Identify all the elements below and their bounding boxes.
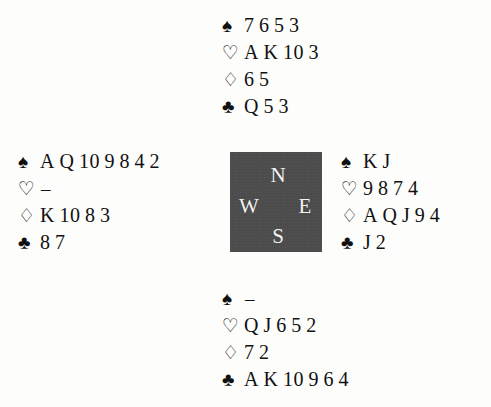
card-rank: 7 [393,175,404,202]
card-rank: A [244,39,259,66]
card-rank: K [263,366,278,393]
heart-icon: ♡ [18,175,40,202]
east-club-holding: J2 [363,229,386,256]
card-rank: Q [59,148,74,175]
north-diamond-holding: 65 [244,66,270,93]
east-spade-holding: KJ [363,148,391,175]
club-icon: ♣ [222,93,244,120]
west-heart-holding: – [40,175,51,202]
west-spade-row: ♠ AQ109842 [18,148,160,175]
card-rank: Q [382,202,397,229]
hand-south: ♠ – ♡ QJ652 ♢ 72 ♣ AK10964 [222,285,349,393]
card-rank: 3 [308,39,319,66]
card-rank: 5 [291,312,302,339]
card-rank: K [363,148,378,175]
diamond-icon: ♢ [222,66,244,93]
card-rank: 9 [363,175,374,202]
compass-box: N W E S [230,152,322,252]
card-rank: J [402,202,410,229]
card-rank: 4 [430,202,441,229]
north-heart-holding: AK103 [244,39,319,66]
west-heart-row: ♡ – [18,175,160,202]
card-rank: J [263,312,271,339]
west-spade-holding: AQ109842 [40,148,160,175]
bridge-deal-diagram: ♠ 7653 ♡ AK103 ♢ 65 ♣ Q53 ♠ AQ109842 ♡ –… [0,0,491,407]
east-spade-row: ♠ KJ [341,148,440,175]
south-spade-holding: – [244,285,255,312]
card-rank: 10 [79,148,100,175]
hand-north: ♠ 7653 ♡ AK103 ♢ 65 ♣ Q53 [222,12,319,120]
card-rank: J [382,148,390,175]
north-spade-row: ♠ 7653 [222,12,319,39]
card-rank: 9 [308,366,319,393]
card-rank: Q [244,312,259,339]
card-rank: A [40,148,55,175]
spade-icon: ♠ [222,285,244,312]
south-heart-row: ♡ QJ652 [222,312,349,339]
card-rank: 2 [376,229,387,256]
card-rank: 7 [244,339,255,366]
card-rank: 3 [289,12,300,39]
north-club-row: ♣ Q53 [222,93,319,120]
void-marker: – [244,285,255,312]
card-rank: 6 [276,312,287,339]
card-rank: J [363,229,371,256]
spade-icon: ♠ [222,12,244,39]
card-rank: 6 [244,66,255,93]
card-rank: A [244,366,259,393]
east-club-row: ♣ J2 [341,229,440,256]
club-icon: ♣ [222,366,244,393]
card-rank: 9 [415,202,426,229]
card-rank: 9 [104,148,115,175]
card-rank: 2 [306,312,317,339]
card-rank: 3 [100,202,111,229]
card-rank: K [40,202,55,229]
card-rank: 10 [283,39,304,66]
north-club-holding: Q53 [244,93,289,120]
card-rank: 5 [263,93,274,120]
card-rank: 10 [283,366,304,393]
card-rank: K [263,39,278,66]
card-rank: Q [244,93,259,120]
compass-label-north: N [270,165,285,186]
card-rank: 4 [338,366,349,393]
east-heart-holding: 9874 [363,175,419,202]
north-diamond-row: ♢ 65 [222,66,319,93]
club-icon: ♣ [18,229,40,256]
diamond-icon: ♢ [341,202,363,229]
card-rank: 10 [59,202,80,229]
card-rank: 3 [278,93,289,120]
card-rank: 2 [259,339,270,366]
hand-east: ♠ KJ ♡ 9874 ♢ AQJ94 ♣ J2 [341,148,440,256]
north-heart-row: ♡ AK103 [222,39,319,66]
south-diamond-row: ♢ 72 [222,339,349,366]
card-rank: 7 [244,12,255,39]
south-club-holding: AK10964 [244,366,349,393]
south-heart-holding: QJ652 [244,312,317,339]
compass-label-south: S [272,226,284,247]
card-rank: 8 [119,148,130,175]
east-diamond-row: ♢ AQJ94 [341,202,440,229]
card-rank: 8 [378,175,389,202]
heart-icon: ♡ [222,312,244,339]
card-rank: A [363,202,378,229]
hand-west: ♠ AQ109842 ♡ – ♢ K1083 ♣ 87 [18,148,160,256]
compass-label-east: E [299,196,312,217]
card-rank: 4 [408,175,419,202]
east-heart-row: ♡ 9874 [341,175,440,202]
card-rank: 5 [274,12,285,39]
diamond-icon: ♢ [18,202,40,229]
card-rank: 8 [85,202,96,229]
south-diamond-holding: 72 [244,339,270,366]
compass-label-west: W [239,196,259,217]
void-marker: – [40,175,51,202]
north-spade-holding: 7653 [244,12,300,39]
card-rank: 2 [149,148,160,175]
west-diamond-holding: K1083 [40,202,110,229]
east-diamond-holding: AQJ94 [363,202,440,229]
heart-icon: ♡ [341,175,363,202]
card-rank: 8 [40,229,51,256]
card-rank: 5 [259,66,270,93]
card-rank: 7 [55,229,66,256]
west-club-row: ♣ 87 [18,229,160,256]
